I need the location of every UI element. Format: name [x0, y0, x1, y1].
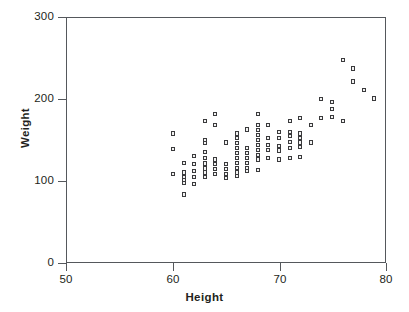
data-point: [203, 161, 207, 165]
data-point: [192, 175, 196, 179]
data-point: [256, 133, 260, 137]
data-point: [203, 119, 207, 123]
data-point: [213, 157, 217, 161]
data-point: [277, 148, 281, 152]
data-point: [256, 148, 260, 152]
data-point: [245, 151, 249, 155]
data-point: [277, 144, 281, 148]
data-point: [235, 166, 239, 170]
data-point: [224, 162, 228, 166]
data-point: [235, 174, 239, 178]
data-point: [256, 112, 260, 116]
data-point: [203, 141, 207, 145]
data-point: [288, 134, 292, 138]
data-point: [171, 131, 175, 135]
data-point: [245, 146, 249, 150]
data-point: [362, 88, 366, 92]
data-point: [330, 107, 334, 111]
data-point: [351, 66, 355, 70]
data-point: [192, 162, 196, 166]
y-axis-label-0: 0: [0, 257, 54, 269]
data-point: [309, 123, 313, 127]
data-point: [245, 169, 249, 173]
x-axis-label-80: 80: [366, 273, 406, 285]
data-point: [256, 157, 260, 161]
data-point: [309, 140, 313, 144]
data-point: [256, 128, 260, 132]
data-point: [288, 140, 292, 144]
data-point: [341, 119, 345, 123]
data-point: [288, 119, 292, 123]
data-point: [288, 156, 292, 160]
data-point: [298, 116, 302, 120]
data-point: [319, 97, 323, 101]
data-point: [224, 140, 228, 144]
data-point: [266, 136, 270, 140]
data-point: [182, 181, 186, 185]
x-axis-tick-70: [280, 263, 281, 271]
data-point: [235, 141, 239, 145]
data-point: [298, 155, 302, 159]
data-point: [351, 79, 355, 83]
data-point: [224, 167, 228, 171]
x-axis-tick-50: [66, 263, 67, 271]
data-point: [171, 172, 175, 176]
data-point: [372, 96, 376, 100]
data-point: [256, 123, 260, 127]
x-axis-label-60: 60: [153, 273, 193, 285]
data-point: [182, 192, 186, 196]
data-point: [235, 161, 239, 165]
x-axis-label-70: 70: [260, 273, 300, 285]
data-point: [266, 123, 270, 127]
data-point: [330, 115, 334, 119]
data-point: [256, 168, 260, 172]
x-axis-label-50: 50: [46, 273, 86, 285]
data-point: [256, 138, 260, 142]
data-point: [266, 143, 270, 147]
y-axis-tick-0: [58, 263, 66, 264]
data-point: [182, 161, 186, 165]
plot-area: [66, 17, 386, 263]
data-point: [235, 146, 239, 150]
data-point: [192, 169, 196, 173]
data-point: [319, 116, 323, 120]
data-point: [245, 156, 249, 160]
data-point: [213, 167, 217, 171]
x-axis-title: Height: [0, 291, 409, 303]
data-point: [224, 176, 228, 180]
y-axis-tick-100: [58, 181, 66, 182]
y-axis-tick-300: [58, 17, 66, 18]
x-axis-tick-80: [386, 263, 387, 271]
data-point: [288, 146, 292, 150]
y-axis-label-100: 100: [0, 175, 54, 187]
data-point: [277, 130, 281, 134]
data-points-layer: [67, 18, 385, 262]
y-axis-tick-200: [58, 99, 66, 100]
data-point: [277, 136, 281, 140]
y-axis-title: Weight: [19, 90, 31, 166]
data-point: [213, 172, 217, 176]
y-axis-label-300: 300: [0, 11, 54, 23]
data-point: [235, 156, 239, 160]
data-point: [256, 153, 260, 157]
data-point: [203, 156, 207, 160]
data-point: [171, 147, 175, 151]
data-point: [256, 143, 260, 147]
data-point: [235, 131, 239, 135]
data-point: [235, 151, 239, 155]
data-point: [213, 162, 217, 166]
data-point: [203, 150, 207, 154]
data-point: [266, 148, 270, 152]
scatter-chart: 300 200 100 0 Weight 50 60 70 80 Height: [0, 0, 409, 312]
data-point: [298, 140, 302, 144]
data-point: [245, 127, 249, 131]
data-point: [203, 175, 207, 179]
data-point: [298, 145, 302, 149]
x-axis-tick-60: [173, 263, 174, 271]
data-point: [266, 156, 270, 160]
data-point: [277, 157, 281, 161]
data-point: [298, 131, 302, 135]
data-point: [213, 123, 217, 127]
data-point: [213, 112, 217, 116]
data-point: [245, 161, 249, 165]
